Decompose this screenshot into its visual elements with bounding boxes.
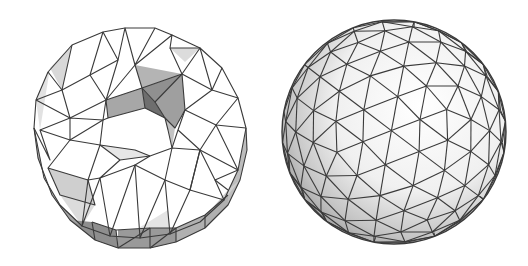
- mesh-edge: [326, 176, 357, 177]
- torus-mesh-panel: Triangulated torus mesh: [0, 0, 264, 266]
- torus-mesh-icon: [0, 0, 264, 266]
- mesh-edge: [354, 31, 385, 32]
- sphere-mesh-panel: Triangulated geodesic sphere mesh: [264, 0, 528, 266]
- mesh-edge: [382, 22, 383, 23]
- sphere-mesh-icon: [264, 0, 528, 266]
- mesh-edge: [383, 22, 414, 23]
- mesh-figure: Triangulated torus mesh: [0, 0, 528, 266]
